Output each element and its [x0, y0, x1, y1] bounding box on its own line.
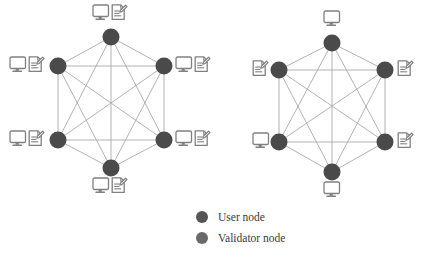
document-pen-icon: [195, 57, 210, 72]
network-node-validator: [324, 35, 341, 52]
document-pen-icon: [195, 131, 210, 146]
network-node-user: [156, 132, 173, 149]
network-node-user: [50, 58, 67, 75]
network-node-validator: [324, 164, 341, 181]
network-node-user: [50, 132, 67, 149]
network-diagram-figure: User node Validator node: [0, 0, 425, 257]
network-node-user: [103, 29, 120, 46]
document-pen-icon: [29, 57, 44, 72]
legend-marker-user-node: [196, 211, 208, 223]
network-node-validator: [377, 62, 394, 79]
document-pen-icon: [253, 61, 268, 76]
legend-marker-validator-node: [196, 232, 208, 244]
document-pen-icon: [29, 131, 44, 146]
document-pen-icon: [112, 5, 127, 20]
legend-label-user-node: User node: [218, 211, 265, 223]
document-pen-icon: [112, 178, 127, 193]
network-node-validator: [271, 134, 288, 151]
network-node-user: [103, 160, 120, 177]
legend-label-validator-node: Validator node: [218, 232, 285, 244]
network-node-validator: [271, 62, 288, 79]
network-node-validator: [377, 134, 394, 151]
network-node-user: [156, 58, 173, 75]
document-pen-icon: [398, 61, 413, 76]
document-pen-icon: [398, 133, 413, 148]
diagram-canvas: User node Validator node: [0, 0, 425, 257]
